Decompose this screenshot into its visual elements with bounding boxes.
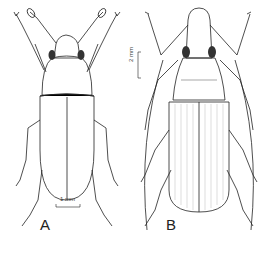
panel-label-a: A bbox=[40, 216, 50, 233]
beetle-a-drawing bbox=[0, 0, 133, 240]
eye-left bbox=[49, 50, 56, 60]
scale-bar-b-label: 2 mm bbox=[128, 47, 134, 62]
figure: A B 1 mm 2 mm bbox=[0, 0, 267, 253]
eye-left bbox=[182, 46, 190, 58]
scale-bar-a-label: 1 mm bbox=[60, 196, 75, 202]
eye-right bbox=[78, 50, 85, 60]
panel-label-b: B bbox=[166, 216, 176, 233]
beetle-b-drawing bbox=[133, 0, 267, 240]
eye-right bbox=[208, 46, 216, 58]
